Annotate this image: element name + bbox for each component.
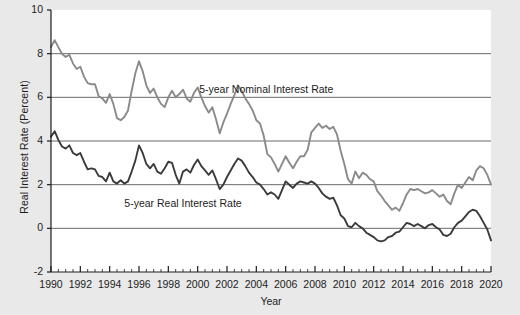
y-tick-label: 8 xyxy=(3,47,43,59)
series-line xyxy=(51,131,491,241)
chart-figure: Real Interest Rate (Percent) Year 108642… xyxy=(0,0,520,315)
chart-svg xyxy=(0,0,520,315)
y-tick-label: -2 xyxy=(3,265,43,277)
y-tick-label: 2 xyxy=(3,178,43,190)
series-line xyxy=(51,40,491,211)
x-tick-label: 2020 xyxy=(469,278,513,290)
series-annotation: 5-year Real Interest Rate xyxy=(124,197,241,209)
series-annotation: 5-year Nominal Interest Rate xyxy=(199,83,333,95)
y-tick-label: 4 xyxy=(3,134,43,146)
gridlines xyxy=(51,54,491,229)
x-axis-label: Year xyxy=(51,295,491,307)
y-tick-label: 10 xyxy=(3,3,43,15)
y-tick-label: 0 xyxy=(3,221,43,233)
y-tick-label: 6 xyxy=(3,90,43,102)
